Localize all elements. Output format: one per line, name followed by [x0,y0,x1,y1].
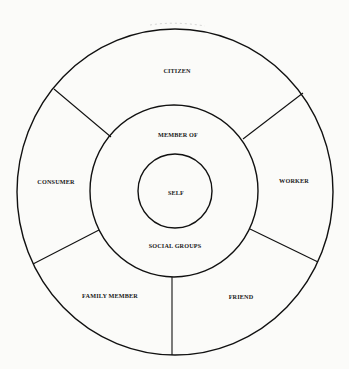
divider-citizen-worker [243,93,303,139]
segment-label-family-member: FAMILY MEMBER [82,292,138,299]
social-roles-diagram: CITIZEN WORKER FRIEND FAMILY MEMBER CONS… [0,0,349,369]
segment-label-consumer: CONSUMER [37,178,75,185]
ring-label-social-groups: SOCIAL GROUPS [149,242,202,249]
divider-worker-friend [250,229,318,262]
divider-consumer-family [33,230,99,264]
segment-label-worker: WORKER [279,177,309,184]
segment-label-friend: FRIEND [229,293,254,300]
segment-label-citizen: CITIZEN [163,67,191,74]
divider-citizen-consumer [54,89,111,137]
ring-label-member-of: MEMBER OF [158,131,198,138]
faint-scan-mark [150,23,205,26]
center-label-self: SELF [168,189,184,196]
